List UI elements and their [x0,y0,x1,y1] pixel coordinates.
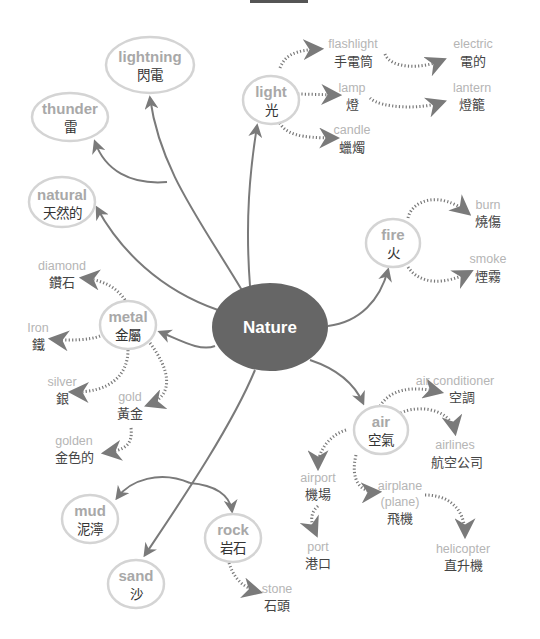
center-node[interactable]: Nature [212,283,328,371]
leaf-airport[interactable]: airport 機場 [300,471,336,502]
node-metal-en: metal [108,308,147,325]
leaf-lantern[interactable]: lantern 燈籠 [453,81,491,112]
svg-text:石頭: 石頭 [264,598,290,613]
node-lightning[interactable]: lightning 閃電 [106,37,194,93]
node-air-en: air [372,413,391,430]
leaf-smoke[interactable]: smoke 煙霧 [470,252,507,284]
svg-text:手電筒: 手電筒 [334,54,373,69]
svg-text:燒傷: 燒傷 [475,214,501,229]
node-thunder-en: thunder [42,100,98,117]
svg-text:airlines: airlines [435,438,475,452]
node-light-en: light [255,83,287,100]
node-rock-zh: 岩石 [220,540,246,556]
svg-text:飛機: 飛機 [387,511,413,526]
title-fragment [250,0,308,3]
svg-text:航空公司: 航空公司 [431,455,483,470]
node-sand[interactable]: sand 沙 [108,560,164,608]
leaf-air-conditioner[interactable]: air conditioner 空調 [416,374,495,405]
svg-text:lantern: lantern [453,81,491,95]
svg-text:機場: 機場 [305,487,331,502]
center-label: Nature [243,318,297,337]
svg-text:鑽石: 鑽石 [49,275,75,290]
node-lightning-zh: 閃電 [137,67,163,83]
leaf-flashlight[interactable]: flashlight 手電筒 [328,37,378,69]
node-light-zh: 光 [265,102,278,118]
leaf-port[interactable]: port 港口 [305,540,331,571]
svg-text:黃金: 黃金 [117,406,143,421]
node-air-zh: 空氣 [368,432,394,448]
svg-text:鐵: 鐵 [32,337,45,352]
svg-text:燈籠: 燈籠 [459,97,485,112]
leaf-electric[interactable]: electric 電的 [453,37,493,69]
svg-text:Iron: Iron [27,321,49,335]
svg-text:air conditioner: air conditioner [416,374,495,388]
leaf-airplane[interactable]: airplane (plane) 飛機 [378,479,423,526]
node-thunder[interactable]: thunder 雷 [32,93,108,141]
svg-text:flashlight: flashlight [328,37,378,51]
leaf-gold[interactable]: gold 黃金 [117,390,143,421]
leaf-iron[interactable]: Iron 鐵 [27,321,49,352]
svg-text:diamond: diamond [38,259,86,273]
svg-text:空調: 空調 [449,390,475,405]
svg-text:lamp: lamp [338,81,365,95]
mind-map: Nature lightning 閃電 thunder 雷 natural 天然… [0,0,540,639]
svg-text:港口: 港口 [305,556,331,571]
svg-text:burn: burn [475,198,500,212]
node-air[interactable]: air 空氣 [354,406,408,454]
svg-text:airport: airport [300,471,336,485]
leaf-airlines[interactable]: airlines 航空公司 [431,438,483,470]
node-fire-zh: 火 [387,245,400,261]
svg-text:helicopter: helicopter [436,542,490,556]
svg-text:airplane: airplane [378,479,423,493]
leaf-burn[interactable]: burn 燒傷 [475,198,501,229]
svg-text:煙霧: 煙霧 [475,269,501,284]
node-metal-zh: 金屬 [115,327,141,343]
svg-text:金色的: 金色的 [55,450,94,465]
svg-text:蠟燭: 蠟燭 [339,140,365,155]
svg-text:golden: golden [55,434,93,448]
node-sand-en: sand [118,567,153,584]
leaf-silver[interactable]: silver 銀 [47,375,76,406]
leaf-lamp[interactable]: lamp 燈 [338,81,365,112]
node-fire[interactable]: fire 火 [366,219,420,267]
node-metal[interactable]: metal 金屬 [100,301,156,349]
svg-text:(plane): (plane) [381,495,420,509]
node-lightning-en: lightning [118,48,181,65]
svg-text:electric: electric [453,37,493,51]
node-mud-zh: 泥濘 [77,521,103,537]
node-rock-en: rock [217,521,249,538]
node-light[interactable]: light 光 [243,76,299,124]
svg-text:電的: 電的 [460,54,486,69]
node-mud[interactable]: mud 泥濘 [62,495,118,543]
svg-text:port: port [307,540,329,554]
svg-text:smoke: smoke [470,252,507,266]
svg-text:銀: 銀 [56,391,69,406]
svg-text:gold: gold [118,390,142,404]
leaf-helicopter[interactable]: helicopter 直升機 [436,542,490,573]
leaf-diamond[interactable]: diamond 鑽石 [38,259,86,290]
leaf-golden[interactable]: golden 金色的 [55,434,94,465]
svg-text:candle: candle [334,123,371,137]
node-natural[interactable]: natural 天然的 [29,177,95,227]
svg-text:燈: 燈 [346,97,359,112]
svg-text:直升機: 直升機 [444,558,483,573]
node-mud-en: mud [74,502,106,519]
node-natural-en: natural [37,186,87,203]
node-sand-zh: 沙 [130,586,143,602]
node-natural-zh: 天然的 [43,205,82,221]
node-rock[interactable]: rock 岩石 [205,514,261,562]
node-fire-en: fire [381,226,404,243]
node-thunder-zh: 雷 [64,119,77,135]
svg-text:silver: silver [47,375,76,389]
leaf-candle[interactable]: candle 蠟燭 [334,123,371,155]
leaf-stone[interactable]: stone 石頭 [262,582,293,613]
svg-text:stone: stone [262,582,293,596]
